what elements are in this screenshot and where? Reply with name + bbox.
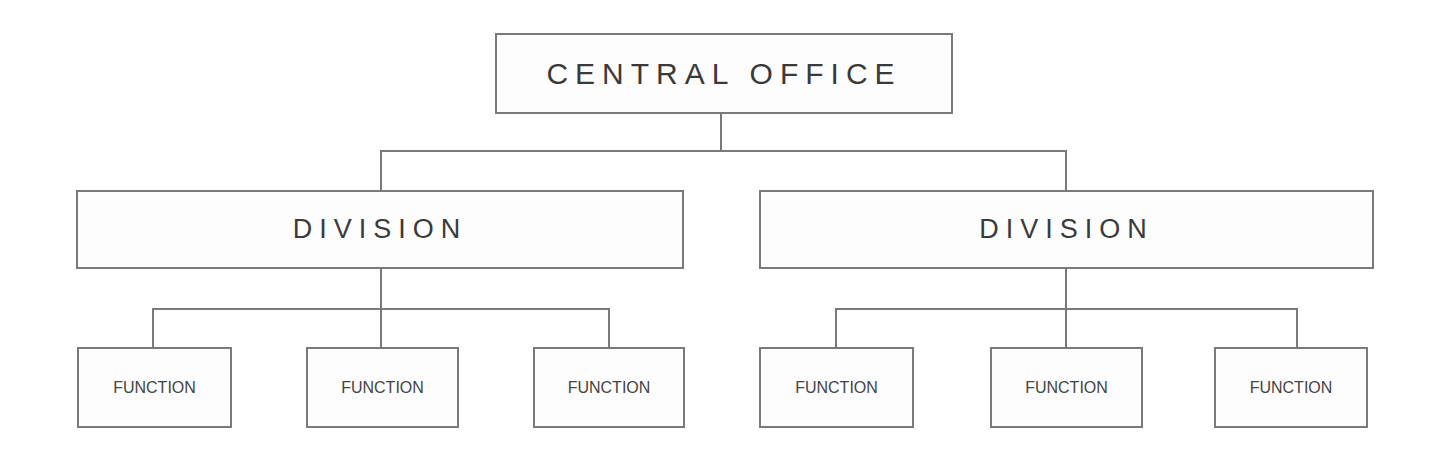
connector-to-function-1-1 xyxy=(152,308,154,348)
function-label: FUNCTION xyxy=(795,379,878,397)
function-box-2-1: FUNCTION xyxy=(759,347,914,428)
function-box-2-2: FUNCTION xyxy=(990,347,1143,428)
central-office-label: CENTRAL OFFICE xyxy=(546,57,901,91)
connector-division-1-bar xyxy=(152,308,610,310)
connector-root-bar xyxy=(380,150,1067,152)
division-box-1: DIVISION xyxy=(76,190,684,269)
function-box-2-3: FUNCTION xyxy=(1214,347,1368,428)
function-box-1-2: FUNCTION xyxy=(306,347,459,428)
connector-to-function-2-3 xyxy=(1296,308,1298,348)
function-label: FUNCTION xyxy=(113,379,196,397)
function-label: FUNCTION xyxy=(1025,379,1108,397)
connector-root-down xyxy=(720,114,722,151)
central-office-box: CENTRAL OFFICE xyxy=(495,33,953,114)
function-box-1-1: FUNCTION xyxy=(77,347,232,428)
connector-to-function-2-1 xyxy=(835,308,837,348)
function-label: FUNCTION xyxy=(568,379,651,397)
connector-to-function-1-3 xyxy=(608,308,610,348)
connector-to-division-2 xyxy=(1065,150,1067,191)
division-label-2: DIVISION xyxy=(979,214,1154,245)
function-label: FUNCTION xyxy=(1250,379,1333,397)
connector-division-2-bar xyxy=(835,308,1298,310)
function-box-1-3: FUNCTION xyxy=(533,347,685,428)
division-label-1: DIVISION xyxy=(293,214,468,245)
division-box-2: DIVISION xyxy=(759,190,1374,269)
connector-to-division-1 xyxy=(380,150,382,191)
function-label: FUNCTION xyxy=(341,379,424,397)
